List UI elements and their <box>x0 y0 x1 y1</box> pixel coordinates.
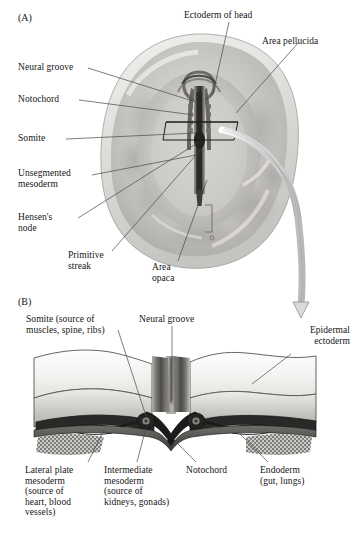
label-endoderm: Endoderm (gut, lungs) <box>260 465 304 486</box>
leader-lines-panel-b <box>88 326 291 462</box>
illustration-layer <box>0 0 357 538</box>
figure-root: (A) Ectoderm of head Area pellucida Neur… <box>0 0 357 538</box>
label-neural-groove-b: Neural groove <box>139 314 194 325</box>
label-neural-groove-a: Neural groove <box>18 62 73 73</box>
label-lateral-plate-mesoderm: Lateral plate mesoderm (source of heart,… <box>25 465 73 518</box>
panel-b-tag: (B) <box>18 296 31 307</box>
label-notochord-b: Notochord <box>186 465 227 476</box>
label-unsegmented-mesoderm: Unsegmented mesoderm <box>18 168 71 189</box>
label-somite-source: Somite (source of muscles, spine, ribs) <box>26 314 105 335</box>
label-intermediate-mesoderm: Intermediate mesoderm (source of kidneys… <box>104 465 169 507</box>
section-plane-inset <box>163 122 238 140</box>
label-notochord-a: Notochord <box>18 94 59 105</box>
leader-lines-panel-a <box>66 22 299 261</box>
label-area-opaca: Area opaca <box>152 262 174 283</box>
label-somite-a: Somite <box>18 133 45 144</box>
transverse-section <box>34 350 316 455</box>
somite-blocks <box>137 413 205 429</box>
label-epidermal-ectoderm: Epidermal ectoderm <box>252 325 350 346</box>
label-hensens-node: Hensen's node <box>18 212 52 233</box>
label-area-pellucida: Area pellucida <box>262 36 318 47</box>
label-ectoderm-of-head: Ectoderm of head <box>184 10 252 21</box>
embryo-dorsal-view <box>101 34 298 268</box>
label-primitive-streak: Primitive streak <box>68 250 104 271</box>
section-plane-arrow <box>221 128 309 318</box>
panel-a-tag: (A) <box>18 12 32 23</box>
